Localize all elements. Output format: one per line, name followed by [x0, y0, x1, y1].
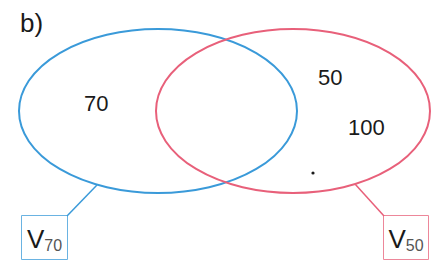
v50-subscript: 50 [406, 237, 424, 255]
v50-connector [355, 184, 384, 216]
value-100: 100 [348, 117, 385, 139]
v70-connector [67, 185, 97, 216]
dot-mark [311, 171, 314, 174]
value-50: 50 [318, 67, 342, 89]
part-label: b) [20, 8, 43, 39]
v70-name: V [27, 224, 44, 255]
value-70: 70 [84, 93, 108, 115]
v50-label-box: V50 [384, 216, 428, 259]
v50-name: V [388, 224, 405, 255]
set-v70-ellipse [19, 29, 297, 193]
v70-subscript: 70 [44, 237, 62, 255]
set-v50-ellipse [156, 29, 430, 193]
v70-label-box: V70 [22, 216, 67, 259]
